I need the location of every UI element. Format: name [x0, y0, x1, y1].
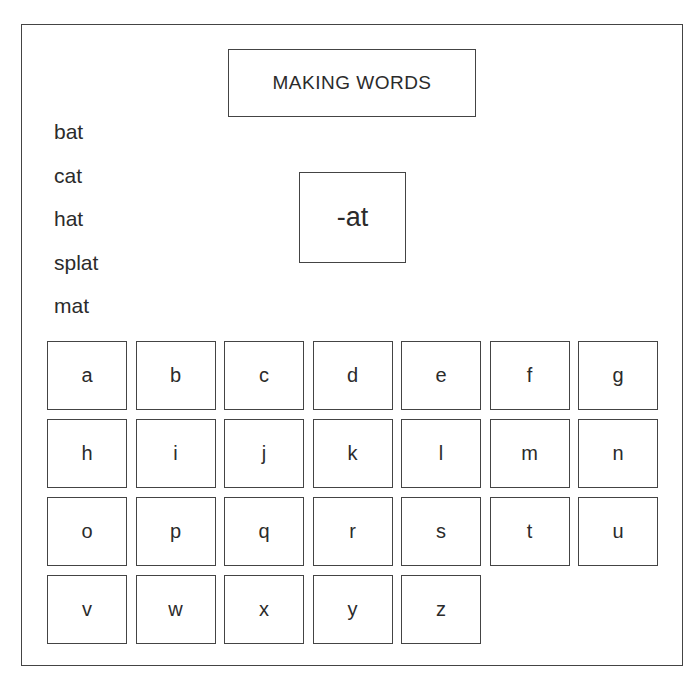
letter-tile-label: g — [612, 364, 623, 387]
letter-tile-label: e — [435, 364, 446, 387]
letter-tile[interactable]: u — [578, 497, 658, 566]
word-list: bat cat hat splat mat — [54, 114, 98, 332]
letter-tile[interactable]: q — [224, 497, 304, 566]
letter-tile[interactable]: k — [313, 419, 393, 488]
letter-tile[interactable]: h — [47, 419, 127, 488]
word-family-card: -at — [299, 172, 406, 263]
word-item: splat — [54, 245, 98, 289]
letter-tile[interactable]: s — [401, 497, 481, 566]
letter-tile-label: u — [612, 520, 623, 543]
letter-tile[interactable]: c — [224, 341, 304, 410]
letter-tile[interactable]: v — [47, 575, 127, 644]
letter-tile-label: v — [82, 598, 92, 621]
letter-tile-label: i — [173, 442, 177, 465]
letter-tile[interactable]: t — [490, 497, 570, 566]
letter-tile-label: a — [81, 364, 92, 387]
word-item: hat — [54, 201, 98, 245]
letter-tile-label: b — [170, 364, 181, 387]
letter-tile[interactable]: g — [578, 341, 658, 410]
letter-tile-label: n — [612, 442, 623, 465]
letter-tile-label: s — [436, 520, 446, 543]
letter-tile-label: h — [81, 442, 92, 465]
letter-tile-label: t — [527, 520, 533, 543]
letter-tile[interactable]: z — [401, 575, 481, 644]
letter-tile-label: x — [259, 598, 269, 621]
letter-tile[interactable]: p — [136, 497, 216, 566]
letter-tile[interactable]: n — [578, 419, 658, 488]
letter-tile-label: q — [258, 520, 269, 543]
letter-tile[interactable]: m — [490, 419, 570, 488]
letter-tile[interactable]: j — [224, 419, 304, 488]
letter-tile-label: o — [81, 520, 92, 543]
letter-tile[interactable]: e — [401, 341, 481, 410]
word-item: mat — [54, 288, 98, 332]
word-item: cat — [54, 158, 98, 202]
word-item: bat — [54, 114, 98, 158]
letter-tile-label: z — [436, 598, 446, 621]
letter-tile[interactable]: r — [313, 497, 393, 566]
letter-tile[interactable]: b — [136, 341, 216, 410]
letter-tile-label: y — [348, 598, 358, 621]
word-family-text: -at — [337, 202, 369, 233]
letter-tile-label: f — [527, 364, 533, 387]
letter-tile-label: k — [348, 442, 358, 465]
page-title: MAKING WORDS — [228, 49, 476, 117]
letter-tile[interactable]: f — [490, 341, 570, 410]
letter-tile[interactable]: y — [313, 575, 393, 644]
letter-tile[interactable]: l — [401, 419, 481, 488]
letter-tile[interactable]: w — [136, 575, 216, 644]
letter-tile-label: w — [168, 598, 182, 621]
letter-tile-label: m — [521, 442, 538, 465]
letter-tile-label: c — [259, 364, 269, 387]
title-text: MAKING WORDS — [272, 72, 431, 94]
letter-tile[interactable]: d — [313, 341, 393, 410]
letter-tile[interactable]: o — [47, 497, 127, 566]
letter-tile-label: d — [347, 364, 358, 387]
letter-tile-label: r — [349, 520, 356, 543]
letter-tile[interactable]: a — [47, 341, 127, 410]
letter-tile-label: j — [262, 442, 266, 465]
letter-tile-label: p — [170, 520, 181, 543]
letter-tile-label: l — [439, 442, 443, 465]
letter-tile[interactable]: x — [224, 575, 304, 644]
letter-tile[interactable]: i — [136, 419, 216, 488]
